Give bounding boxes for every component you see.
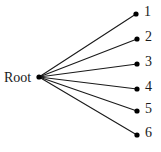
leaf-node-label-6: 6: [145, 126, 152, 140]
leaf-node-dot-4: [134, 86, 139, 91]
root-node-dot: [36, 74, 41, 79]
leaf-node-dot-6: [134, 132, 139, 137]
leaf-node-dot-2: [134, 36, 139, 41]
leaf-node-dot-1: [133, 11, 138, 16]
edge-group: [39, 14, 137, 135]
node-group: [36, 11, 139, 137]
leaf-node-label-5: 5: [145, 102, 152, 116]
tree-edge: [39, 77, 137, 89]
leaf-node-label-4: 4: [145, 80, 152, 94]
leaf-node-label-3: 3: [145, 55, 152, 69]
leaf-node-dot-5: [134, 108, 139, 113]
leaf-node-dot-3: [134, 61, 139, 66]
leaf-node-label-2: 2: [145, 30, 152, 44]
root-node-label: Root: [4, 71, 31, 85]
tree-edge: [39, 64, 137, 77]
tree-diagram: Root 123456: [0, 0, 161, 152]
leaf-node-label-1: 1: [144, 5, 151, 19]
